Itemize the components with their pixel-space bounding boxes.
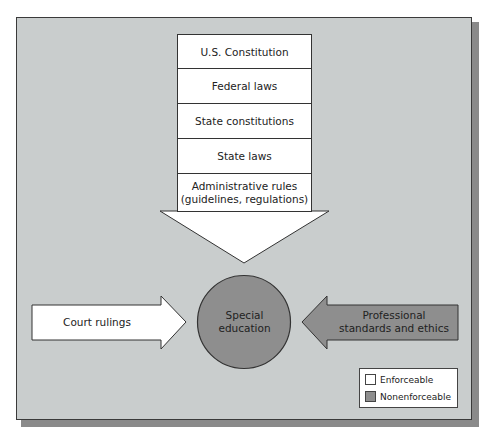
hierarchy-item-federal-laws: Federal laws — [177, 69, 312, 104]
hierarchy-item-us-constitution: U.S. Constitution — [177, 34, 312, 69]
enforceable-swatch-icon — [365, 374, 376, 385]
legend-label-enforceable: Enforceable — [380, 375, 433, 385]
hierarchy-item-state-constitutions: State constitutions — [177, 104, 312, 139]
legal-hierarchy-stack: U.S. Constitution Federal laws State con… — [177, 34, 312, 212]
legend-item-nonenforceable: Nonenforceable — [365, 391, 451, 402]
center-label-line2: education — [198, 322, 291, 335]
legend: Enforceable Nonenforceable — [359, 368, 458, 408]
legend-label-nonenforceable: Nonenforceable — [380, 392, 451, 402]
down-arrow-head — [160, 211, 329, 263]
hierarchy-item-state-laws: State laws — [177, 139, 312, 174]
hierarchy-item-administrative-rules: Administrative rules (guidelines, regula… — [177, 174, 312, 212]
professional-standards-line1: Professional — [332, 309, 456, 322]
legend-item-enforceable: Enforceable — [365, 374, 433, 385]
nonenforceable-swatch-icon — [365, 391, 376, 402]
center-label: Special education — [198, 309, 291, 335]
court-rulings-label: Court rulings — [40, 316, 154, 329]
professional-standards-line2: standards and ethics — [332, 322, 456, 335]
center-label-line1: Special — [198, 309, 291, 322]
professional-standards-label: Professional standards and ethics — [332, 309, 456, 335]
